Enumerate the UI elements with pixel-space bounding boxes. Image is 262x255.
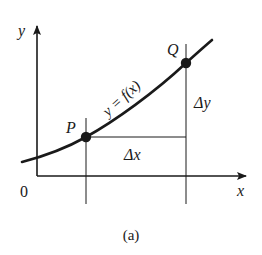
derivative-diagram: y x 0 P Q y = f(x) Δx Δy (a) <box>0 0 262 255</box>
x-axis-label: x <box>236 182 244 199</box>
point-q-label: Q <box>167 41 179 58</box>
delta-x-label: Δx <box>123 146 141 163</box>
point-p-label: P <box>65 119 76 136</box>
origin-label: 0 <box>20 183 28 200</box>
figure-caption: (a) <box>123 227 140 244</box>
point-p <box>81 132 91 142</box>
point-q <box>181 58 191 68</box>
delta-y-label: Δy <box>193 94 211 112</box>
y-axis-label: y <box>16 22 26 40</box>
